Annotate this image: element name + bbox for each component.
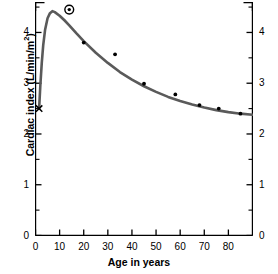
x-axis-tick-label: 60: [170, 242, 190, 252]
right-axis-tick-label: 1: [259, 180, 273, 190]
right-axis-tick-label: 0: [259, 231, 273, 241]
x-axis-tick-label: 0: [26, 242, 46, 252]
x-axis-tick-label: 30: [98, 242, 118, 252]
right-axis-tick-label: 3: [259, 78, 273, 88]
right-axis-tick-label: 2: [259, 129, 273, 139]
highlighted-point-dot: [68, 8, 71, 11]
y-axis-tick-label: 1: [15, 180, 29, 190]
x-axis-title: Age in years: [0, 256, 278, 268]
data-point-dot: [142, 82, 146, 86]
data-point-dot: [239, 112, 243, 116]
x-axis-tick-label: 40: [122, 242, 142, 252]
data-point-dot: [113, 52, 117, 56]
plot-svg: [35, 2, 253, 236]
fitted-curve: [39, 11, 252, 115]
y-axis-tick-label: 0: [15, 231, 29, 241]
x-axis-tick-label: 20: [74, 242, 94, 252]
cardiac-index-chart: 01234 01234 01020304050607080 Cardiac in…: [0, 0, 278, 274]
x-axis-tick-label: 50: [146, 242, 166, 252]
right-axis-tick-label: 4: [259, 27, 273, 37]
data-point-dot: [198, 103, 202, 107]
data-point-dot: [217, 107, 221, 111]
data-point-dot: [173, 92, 177, 96]
y-axis-title: Cardiac index (L/min/m2): [22, 15, 36, 175]
x-axis-tick-label: 80: [218, 242, 238, 252]
x-axis-tick-label: 10: [50, 242, 70, 252]
x-axis-tick-label: 70: [194, 242, 214, 252]
plot-area: [35, 2, 253, 236]
data-point-dot: [82, 41, 86, 45]
